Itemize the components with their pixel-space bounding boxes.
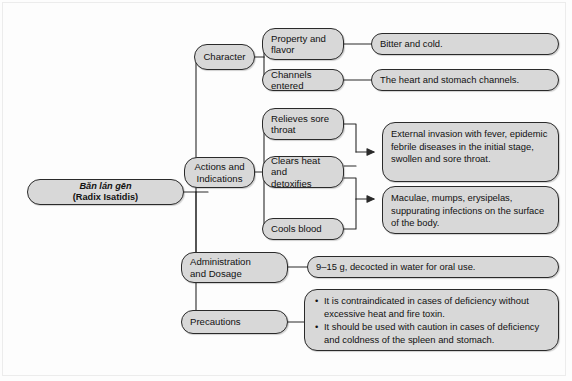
value-administration-dosage[interactable]: 9–15 g, decocted in water for oral use. [307,256,559,278]
node-property-and-flavor-label: Property and flavor [271,33,335,56]
node-clears-heat-detoxifies-label: Clears heat and detoxifies [271,155,335,189]
node-clears-heat-detoxifies[interactable]: Clears heat and detoxifies [262,156,344,188]
branch-precautions[interactable]: Precautions [181,310,288,334]
node-cools-blood[interactable]: Cools blood [262,218,344,240]
wire-relieves-join [344,124,356,152]
value-indication-first-text: External invasion with fever, epidemic f… [391,128,550,166]
root-node-label: Bǎn lán gēn (Radix Isatidis) [36,181,175,203]
precautions-list: It is contraindicated in cases of defici… [315,295,550,347]
value-indication-second-text: Maculae, mumps, erysipelas, suppurating … [391,192,550,230]
branch-actions-indications[interactable]: Actions and Indications [184,157,255,188]
value-property-and-flavor-text: Bitter and cold. [380,38,550,51]
root-pinyin: Bǎn lán gēn [36,181,175,192]
value-channels-entered-text: The heart and stomach channels. [380,74,550,87]
node-property-and-flavor[interactable]: Property and flavor [262,28,344,60]
value-indication-first[interactable]: External invasion with fever, epidemic f… [382,122,559,182]
arrowhead-indication2 [367,196,374,202]
value-channels-entered[interactable]: The heart and stomach channels. [371,69,559,91]
node-relieves-sore-throat[interactable]: Relieves sore throat [262,108,344,140]
node-channels-entered-label: Channels entered [271,69,335,92]
root-latin: (Radix Isatidis) [36,192,175,203]
branch-character-label: Character [203,51,246,62]
arrowhead-indication1 [367,149,374,155]
list-item: It is contraindicated in cases of defici… [315,295,550,320]
list-item: It should be used with caution in cases … [315,321,550,346]
branch-character[interactable]: Character [194,44,255,70]
branch-actions-indications-label: Actions and Indications [193,161,246,184]
root-node[interactable]: Bǎn lán gēn (Radix Isatidis) [27,179,184,205]
node-cools-blood-label: Cools blood [271,223,335,234]
value-administration-dosage-text: 9–15 g, decocted in water for oral use. [316,261,550,274]
wire-clears-join-lower [344,178,356,199]
value-property-and-flavor[interactable]: Bitter and cold. [371,33,559,55]
diagram-page: Bǎn lán gēn (Radix Isatidis) Character A… [0,0,572,381]
wire-cools-join [344,199,356,229]
node-relieves-sore-throat-label: Relieves sore throat [271,113,335,136]
value-precautions[interactable]: It is contraindicated in cases of defici… [304,289,559,351]
branch-precautions-label: Precautions [190,316,279,327]
branch-administration-dosage[interactable]: Administration and Dosage [181,252,288,283]
branch-administration-dosage-label: Administration and Dosage [190,256,279,279]
value-indication-second[interactable]: Maculae, mumps, erysipelas, suppurating … [382,186,559,234]
node-channels-entered[interactable]: Channels entered [262,69,344,91]
